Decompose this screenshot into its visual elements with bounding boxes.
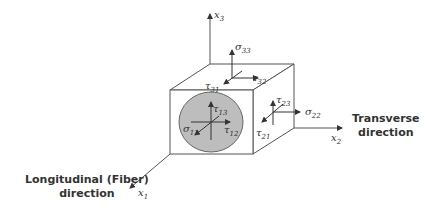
transverse-direction-caption: Transverse direction xyxy=(352,112,420,140)
tau23-label: τ23 xyxy=(276,95,290,108)
tau21-label: τ21 xyxy=(256,128,270,141)
sigma11-label: σ11 xyxy=(183,124,199,137)
tau12-label: τ12 xyxy=(224,125,238,138)
x2-label: x2 xyxy=(331,133,341,146)
longitudinal-direction-caption: Longitudinal (Fiber) direction xyxy=(25,173,149,201)
tau31-label: τ31 xyxy=(205,81,219,94)
sigma33-label: σ33 xyxy=(235,42,251,55)
x3-label: x3 xyxy=(214,10,224,23)
tau13-label: τ13 xyxy=(213,104,227,117)
tau32-label: τ32 xyxy=(252,73,266,86)
sigma22-label: σ22 xyxy=(305,107,321,120)
